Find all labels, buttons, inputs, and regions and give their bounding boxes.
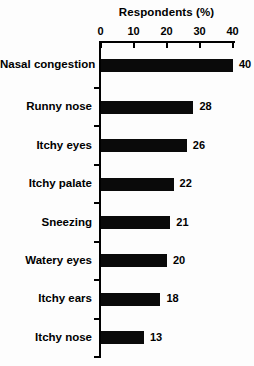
- category-label: Itchy nose: [0, 331, 92, 343]
- bar-value-label: 22: [180, 177, 192, 189]
- category-label: Watery eyes: [0, 254, 92, 266]
- y-axis-tick-mark: [94, 356, 99, 358]
- bar-value-label: 26: [193, 139, 205, 151]
- x-axis-tick-label: 40: [226, 25, 238, 37]
- y-axis-tick-mark: [94, 164, 99, 166]
- bar-value-label: 21: [176, 216, 188, 228]
- y-axis-tick-mark: [94, 125, 99, 127]
- y-axis-tick-mark: [94, 202, 99, 204]
- y-axis-tick-mark: [94, 279, 99, 281]
- y-axis-tick-mark: [94, 241, 99, 243]
- y-axis-line: [99, 41, 101, 358]
- bar: [101, 293, 160, 306]
- bar: [101, 59, 233, 72]
- x-axis-tick-label: 20: [160, 25, 172, 37]
- x-axis-tick-mark: [232, 43, 234, 48]
- category-label: Runny nose: [0, 100, 92, 112]
- y-axis-tick-mark: [94, 87, 99, 89]
- bar-value-label: 20: [173, 254, 185, 266]
- x-axis-tick-mark: [166, 43, 168, 48]
- category-label: Itchy eyes: [0, 139, 92, 151]
- bar: [101, 101, 193, 114]
- bar-value-label: 13: [150, 331, 162, 343]
- x-axis-tick-label: 30: [193, 25, 205, 37]
- x-axis-tick-mark: [133, 43, 135, 48]
- x-axis-tick-label: 0: [97, 25, 103, 37]
- category-label: Sneezing: [0, 216, 92, 228]
- bar-value-label: 40: [239, 58, 251, 70]
- chart-title: Respondents (%): [100, 6, 233, 18]
- y-axis-tick-mark: [94, 318, 99, 320]
- bar: [101, 178, 174, 191]
- bar: [101, 254, 167, 267]
- bar-chart-figure: Respondents (%) 010203040 Nasal congesti…: [0, 0, 254, 366]
- category-label: Nasal congestion: [0, 58, 92, 70]
- x-axis-tick-mark: [199, 43, 201, 48]
- bar: [101, 139, 187, 152]
- x-axis-tick-mark: [100, 43, 102, 48]
- category-label: Itchy ears: [0, 292, 92, 304]
- bar: [101, 331, 144, 344]
- x-axis-tick-label: 10: [127, 25, 139, 37]
- bar-value-label: 28: [199, 100, 211, 112]
- category-label: Itchy palate: [0, 177, 92, 189]
- bar-value-label: 18: [166, 292, 178, 304]
- bar: [101, 216, 170, 229]
